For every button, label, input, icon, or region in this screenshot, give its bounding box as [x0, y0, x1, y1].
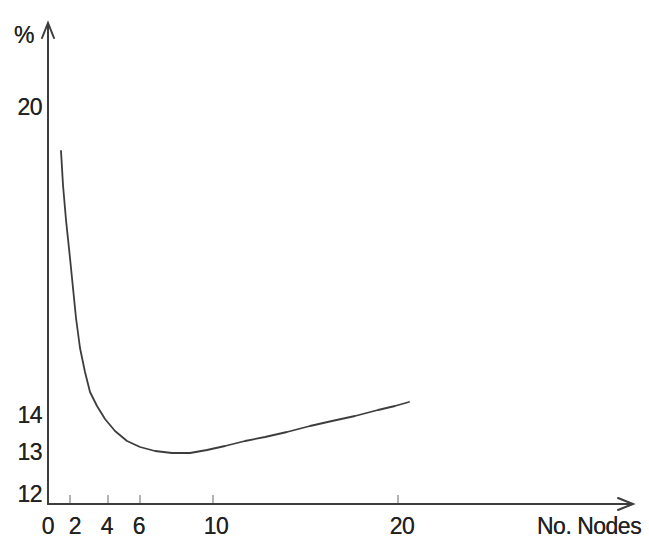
- y-tick-label: 14: [0, 402, 45, 428]
- x-tick-label: 6: [109, 513, 169, 539]
- x-tick-label: 20: [372, 513, 432, 539]
- y-tick-label: 20: [0, 94, 45, 120]
- x-axis-title-label: No. Nodes: [537, 513, 641, 539]
- x-tick-label: 10: [186, 513, 246, 539]
- chart-canvas: [0, 0, 649, 548]
- y-axis-unit-label: %: [14, 22, 34, 48]
- data-curve: [61, 151, 409, 453]
- y-tick-label: 13: [0, 439, 45, 465]
- y-tick-label: 12: [0, 481, 45, 507]
- line-chart-figure: % No. Nodes 20141312 02461020: [0, 0, 649, 548]
